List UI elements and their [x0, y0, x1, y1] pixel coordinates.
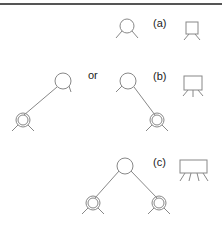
label-b: (b): [153, 70, 166, 82]
label-c: (c): [153, 156, 166, 168]
tree-diagram: [0, 0, 222, 226]
label-a: (a): [153, 17, 166, 29]
or-label: or: [88, 69, 98, 81]
box-a-icon: [184, 22, 200, 40]
box-b-icon: [183, 76, 203, 97]
tree-b-left: [12, 73, 71, 131]
box-c-icon: [180, 160, 208, 181]
node-a: [116, 19, 138, 38]
